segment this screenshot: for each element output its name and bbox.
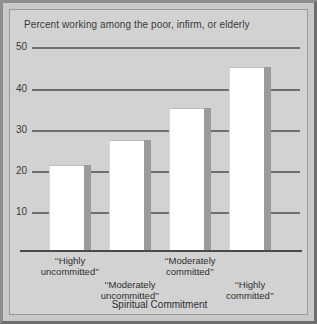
bar-side-shadow — [144, 140, 151, 250]
chart-inner-panel: Percent working among the poor, infirm, … — [9, 9, 308, 315]
bar-face — [49, 165, 84, 250]
x-category-label-highly-uncommitted: ‘‘Highly uncommitted’’ — [12, 255, 128, 277]
bar-highly-committed — [229, 67, 271, 250]
bar-highly-uncommitted — [49, 165, 91, 250]
x-axis-line — [20, 250, 302, 252]
bar-side-shadow — [264, 67, 271, 250]
gridline-50 — [32, 47, 300, 49]
bar-moderately-committed — [169, 108, 211, 250]
bar-side-shadow — [84, 165, 91, 250]
bar-face — [169, 108, 204, 250]
x-category-label-highly-committed: ‘‘Highly committed’’ — [192, 279, 308, 301]
x-category-label-moderately-uncommitted: ‘‘Moderately uncommitted’’ — [72, 279, 188, 301]
x-category-label-moderately-committed: ‘‘Moderately committed’’ — [132, 255, 248, 277]
bar-moderately-uncommitted — [109, 140, 151, 250]
bar-side-shadow — [204, 108, 211, 250]
chart-figure: Percent working among the poor, infirm, … — [0, 0, 317, 324]
bar-face — [109, 140, 144, 250]
plot-area: 50 40 30 20 10 — [10, 10, 309, 316]
x-axis-title: Spiritual Commitment — [10, 299, 309, 310]
bar-face — [229, 67, 264, 250]
